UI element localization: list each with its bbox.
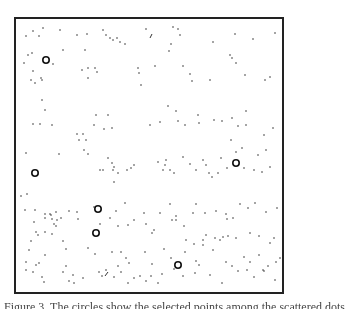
scatter-dot bbox=[112, 39, 114, 41]
scatter-dot bbox=[227, 235, 229, 237]
scatter-dot bbox=[249, 232, 251, 234]
scatter-dot bbox=[183, 225, 185, 227]
scatter-dot bbox=[150, 275, 152, 277]
scatter-dot bbox=[173, 268, 175, 270]
scatter-dot bbox=[44, 109, 46, 111]
scatter-dot bbox=[204, 212, 206, 214]
scatter-dot bbox=[62, 240, 64, 242]
scatter-dot bbox=[44, 213, 46, 215]
scatter-dot bbox=[170, 257, 172, 259]
scatter-dot bbox=[154, 65, 156, 67]
scatter-dot bbox=[258, 235, 260, 237]
scatter-dot bbox=[195, 203, 197, 205]
scatter-dot bbox=[28, 249, 30, 251]
scatter-dot bbox=[94, 67, 96, 69]
scatter-dot bbox=[264, 79, 266, 81]
scatter-dot bbox=[125, 257, 127, 259]
scatter-dot bbox=[39, 123, 41, 125]
scatter-dot bbox=[23, 62, 25, 64]
scatter-dot bbox=[209, 274, 211, 276]
scatter-dot bbox=[24, 209, 26, 211]
scatter-dot bbox=[235, 62, 237, 64]
scatter-dot bbox=[185, 239, 187, 241]
scatter-dot bbox=[58, 153, 60, 155]
highlight-circle-marker bbox=[175, 262, 181, 268]
scatter-dot bbox=[246, 269, 248, 271]
scatter-dot bbox=[202, 239, 204, 241]
scatter-dot bbox=[229, 54, 231, 56]
scatter-dot bbox=[113, 276, 115, 278]
highlight-circle-marker bbox=[95, 206, 101, 212]
scatter-dot bbox=[133, 164, 135, 166]
scatter-dot bbox=[253, 169, 255, 171]
scatter-dot bbox=[84, 49, 86, 51]
scatter-dot bbox=[68, 210, 70, 212]
highlighted-circles bbox=[32, 57, 239, 268]
scatter-dot bbox=[77, 218, 79, 220]
scatter-dot bbox=[193, 243, 195, 245]
scatter-dot bbox=[182, 65, 184, 67]
scatter-dot bbox=[117, 265, 119, 267]
scatter-dot bbox=[241, 147, 243, 149]
scatter-dot bbox=[137, 67, 139, 69]
scatter-dot bbox=[43, 281, 45, 283]
scatter-dot bbox=[113, 181, 115, 183]
scatter-dot bbox=[124, 202, 126, 204]
scatter-dot bbox=[87, 77, 89, 79]
figure-caption: Figure 3. The circles show the selected … bbox=[4, 301, 345, 309]
scatter-dot bbox=[209, 79, 211, 81]
scatter-dot bbox=[112, 169, 114, 171]
scatter-dot bbox=[130, 167, 132, 169]
scatter-dot bbox=[140, 84, 142, 86]
scatter-dot bbox=[62, 49, 64, 51]
scatter-dot bbox=[265, 149, 267, 151]
scatter-dot bbox=[145, 28, 147, 30]
scatter-dot bbox=[72, 274, 74, 276]
scatter-dot bbox=[249, 261, 251, 263]
scatter-dot bbox=[35, 264, 37, 266]
scatter-dot bbox=[25, 35, 27, 37]
scatter-dot bbox=[96, 71, 98, 73]
scatter-dot bbox=[94, 253, 96, 255]
scatter-dot bbox=[93, 124, 95, 126]
scatter-dot bbox=[269, 76, 271, 78]
scatter-dot bbox=[102, 29, 104, 31]
scatter-dot bbox=[102, 169, 104, 171]
scatter-dot bbox=[226, 218, 228, 220]
scatter-dot bbox=[162, 169, 164, 171]
scatter-dot bbox=[31, 52, 33, 54]
scatter-dot bbox=[117, 225, 119, 227]
scatter-dot bbox=[247, 207, 249, 209]
scatter-dots bbox=[20, 26, 281, 284]
scatter-dot bbox=[42, 27, 44, 29]
scatter-dot bbox=[175, 215, 177, 217]
scatter-dot bbox=[120, 271, 122, 273]
scatter-dot bbox=[225, 261, 227, 263]
scatter-dot bbox=[263, 270, 265, 272]
scatter-dot bbox=[191, 80, 193, 82]
scatter-dot bbox=[230, 139, 232, 141]
scatter-dot bbox=[138, 72, 140, 74]
scatter-dot bbox=[276, 207, 278, 209]
scatter-dot bbox=[215, 210, 217, 212]
scatter-dot bbox=[55, 225, 57, 227]
scatter-dot bbox=[197, 114, 199, 116]
scatter-dot bbox=[257, 154, 259, 156]
scatter-dot bbox=[33, 221, 35, 223]
scatter-dot bbox=[217, 172, 219, 174]
scatter-mark bbox=[105, 272, 108, 276]
scatter-dot bbox=[109, 37, 111, 39]
scatter-dot bbox=[219, 239, 221, 241]
scatter-dot bbox=[211, 176, 213, 178]
scatter-dot bbox=[25, 261, 27, 263]
scatter-dot bbox=[133, 277, 135, 279]
scatter-dot bbox=[126, 169, 128, 171]
scatter-dot bbox=[111, 251, 113, 253]
scatter-dot bbox=[214, 237, 216, 239]
scatter-dot bbox=[111, 162, 113, 164]
scatter-dot bbox=[20, 195, 22, 197]
figure-frame bbox=[15, 18, 283, 293]
scatter-dot bbox=[41, 99, 43, 101]
scatter-dot bbox=[34, 209, 36, 211]
scatter-dot bbox=[194, 272, 196, 274]
